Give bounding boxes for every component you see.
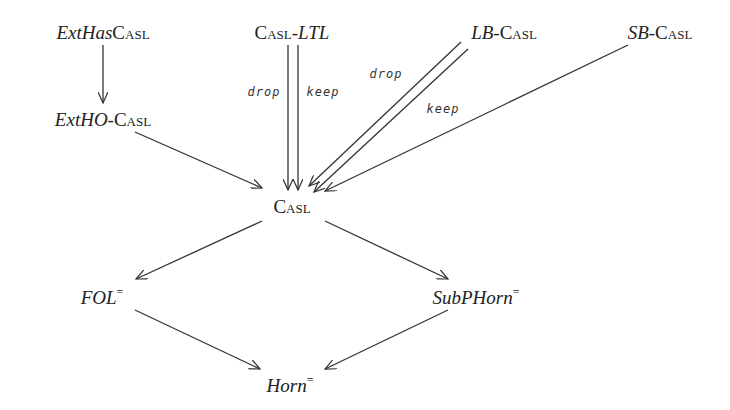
node-exthocasl: ExtHO-Casl	[55, 109, 151, 131]
edge-exthocasl-casl	[135, 132, 262, 188]
node-label-sup: =	[307, 373, 314, 387]
node-label-italic: Horn	[267, 375, 307, 396]
node-casl-ltl: Casl-LTL	[255, 22, 330, 44]
node-label-italic: LB	[471, 22, 493, 43]
edge-label-lb-drop: drop	[370, 67, 403, 81]
node-label-smallcaps: Casl	[255, 22, 292, 43]
node-label-sup: =	[513, 285, 520, 299]
node-label-smallcaps: Casl	[112, 22, 149, 43]
node-lbcasl: LB-Casl	[471, 22, 537, 44]
node-label-sup: =	[117, 285, 124, 299]
node-label-italic: SubPHorn	[432, 287, 512, 308]
edge-fol-horn	[135, 310, 260, 369]
edge-label-ltl-drop: drop	[248, 85, 281, 99]
node-sbcasl: SB-Casl	[628, 22, 693, 44]
node-label-smallcaps: Casl	[500, 22, 537, 43]
edge-label-lb-keep: keep	[427, 102, 460, 116]
edge-casl-subphorn	[325, 221, 448, 279]
node-label-smallcaps: Casl	[655, 22, 692, 43]
edges-layer	[0, 0, 730, 410]
edge-casl-fol	[136, 221, 262, 279]
node-casl: Casl	[273, 196, 310, 218]
node-horn: Horn=	[267, 373, 314, 397]
edge-label-ltl-keep: keep	[307, 85, 340, 99]
edge-subphorn-horn	[325, 310, 448, 369]
node-label-smallcaps: Casl	[273, 196, 310, 217]
node-label-italic: ExtHO	[55, 109, 108, 130]
node-subphorn: SubPHorn=	[432, 285, 519, 309]
node-label-italic: FOL	[81, 287, 117, 308]
node-label-italic: LTL	[298, 22, 329, 43]
node-exthascasl: ExtHasCasl	[56, 22, 149, 44]
node-label-italic: ExtHas	[56, 22, 112, 43]
node-label-italic: SB	[628, 22, 649, 43]
node-label-smallcaps: Casl	[114, 109, 151, 130]
node-fol: FOL=	[81, 285, 124, 309]
